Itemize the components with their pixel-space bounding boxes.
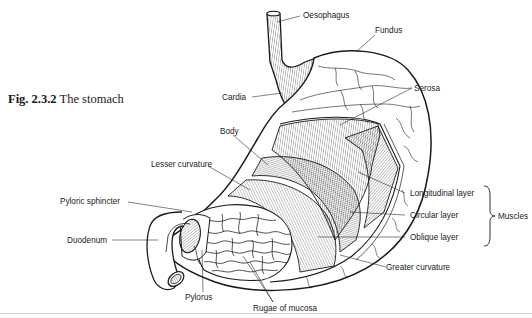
label-serosa: Serosa [414,84,440,93]
stomach-diagram: Oesophagus Fundus Cardia Serosa Body Les… [0,0,532,318]
label-oesophagus: Oesophagus [303,11,349,20]
label-fundus: Fundus [375,26,402,35]
label-muscles: Muscles [498,212,528,221]
label-pyloric-sphincter: Pyloric sphincter [60,197,120,206]
page-divider [0,313,532,314]
label-longitudinal-layer: Longitudinal layer [410,189,474,198]
label-body: Body [220,127,240,136]
rugae-mucosa-shape [194,205,292,281]
label-lesser-curvature: Lesser curvature [151,160,212,169]
label-greater-curvature: Greater curvature [386,263,451,272]
label-oblique-layer: Oblique layer [410,233,459,242]
label-pylorus: Pylorus [185,293,212,302]
label-duodenum: Duodenum [67,236,107,245]
muscles-brace [484,186,495,246]
label-cardia: Cardia [222,93,247,102]
label-circular-layer: Circular layer [410,211,458,220]
label-rugae-of-mucosa: Rugae of mucosa [253,304,318,313]
